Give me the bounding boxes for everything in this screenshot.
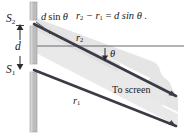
label-path-difference: d sin θ [41,12,68,23]
label-ray-r1: r1 [73,96,80,107]
label-slit-s1: S1 [6,64,15,77]
label-ray-r2: r2 [76,33,83,44]
label-equation: r2 − r1 = d sin θ . [76,11,147,22]
label-theta: θ [110,49,115,60]
double-slit-diagram: S2 d S1 d sin θ r2 − r1 = d sin θ . r2 θ… [0,0,184,134]
label-to-screen: To screen [112,85,150,95]
label-slit-s2: S2 [6,13,15,26]
label-separation-d: d [15,41,21,53]
slit-barrier [30,2,37,132]
